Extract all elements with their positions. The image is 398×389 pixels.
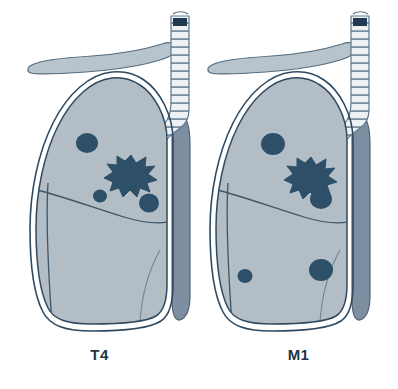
panel-m1-label: M1 bbox=[199, 346, 398, 363]
clavicle-icon bbox=[208, 43, 356, 74]
panel-t4: T4 bbox=[0, 0, 199, 389]
panel-m1-artwork bbox=[199, 0, 398, 345]
lung-staging-figure: T4 bbox=[0, 0, 398, 389]
panel-m1: M1 bbox=[199, 0, 398, 389]
clavicle-icon bbox=[28, 43, 176, 74]
nodule bbox=[261, 133, 285, 155]
nodule bbox=[139, 194, 159, 213]
panel-t4-label: T4 bbox=[0, 346, 199, 363]
mediastinum-column bbox=[352, 113, 370, 320]
nodule bbox=[238, 269, 253, 283]
panel-t4-artwork bbox=[0, 0, 199, 345]
nodule bbox=[93, 190, 107, 203]
nodule bbox=[76, 133, 98, 153]
mediastinum-column bbox=[172, 113, 190, 320]
nodule bbox=[309, 259, 333, 281]
